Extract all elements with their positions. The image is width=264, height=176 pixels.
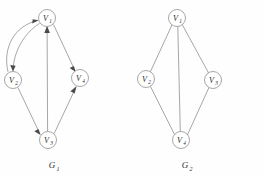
node-label-g1-v4-sub: 4 xyxy=(82,78,85,84)
edge-g2-v3-v4 xyxy=(187,87,209,135)
arrowhead-v3-to-v1 xyxy=(44,26,50,33)
edge-v1-to-v4 xyxy=(54,25,76,72)
arrowhead-v1-to-v2 xyxy=(10,65,15,72)
edge-v3-to-v1 xyxy=(47,27,48,132)
node-label-g1-v1-sub: 1 xyxy=(49,18,52,24)
caption-g1-base: G xyxy=(49,160,56,170)
arrowhead-v2-to-v1 xyxy=(32,19,38,23)
figure-root: V 1 V 2 V 3 V 4 G 1 xyxy=(0,0,264,176)
edge-v3-to-v4 xyxy=(54,87,76,133)
caption-g2-base: G xyxy=(182,160,189,170)
arrowhead-v2-to-v3 xyxy=(34,129,40,135)
edge-g2-v2-v4 xyxy=(150,86,174,134)
graph-g2: V 1 V 2 V 3 V 4 G 2 xyxy=(138,10,222,172)
caption-g1-sub: 1 xyxy=(57,166,60,172)
node-label-g2-v1-sub: 1 xyxy=(179,18,182,24)
node-label-g2-v3-sub: 3 xyxy=(214,80,218,86)
caption-g2: G 2 xyxy=(182,160,193,172)
edge-g2-v1-v2 xyxy=(150,25,172,72)
node-label-g2-v4-sub: 4 xyxy=(183,140,186,146)
node-label-g2-v2-sub: 2 xyxy=(148,79,151,85)
graph-g1: V 1 V 2 V 3 V 4 G 1 xyxy=(5,10,89,172)
caption-g1: G 1 xyxy=(49,160,60,172)
edge-g2-v1-v4 xyxy=(178,27,181,132)
node-label-g1-v2-sub: 2 xyxy=(15,80,18,86)
edge-v2-to-v3 xyxy=(18,87,40,134)
caption-g2-sub: 2 xyxy=(190,166,193,172)
edge-g2-v1-v3 xyxy=(182,25,208,74)
node-label-g1-v3-sub: 3 xyxy=(49,140,53,146)
arrowhead-v3-to-v4 xyxy=(70,86,76,93)
graph-canvas: V 1 V 2 V 3 V 4 G 1 xyxy=(0,0,264,176)
edge-v1-to-v2 xyxy=(13,24,40,71)
